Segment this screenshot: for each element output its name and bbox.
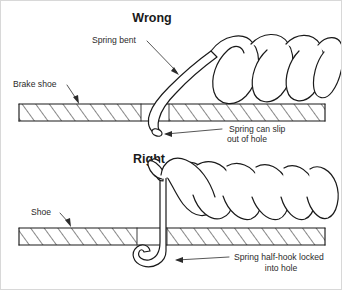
wrong-spring-coils [211,34,342,103]
spring-slip-leader [166,129,222,134]
callout-spring-bent: Spring bent [92,35,179,75]
shoe-label: Shoe [31,207,51,217]
right-spring [133,158,338,267]
wrong-figure: Wrong [13,11,342,144]
spring-bent-leader [147,41,177,72]
shoe-hatch-left [19,228,137,245]
half-hook-label-line2: into hole [265,263,298,273]
callout-half-hook: Spring half-hook locked into hole [175,252,324,273]
callout-shoe: Shoe [31,207,71,227]
brake-shoe-bar [19,104,325,121]
shoe-hatch-right [167,228,325,245]
callout-brake-shoe: Brake shoe [13,79,79,104]
arrow-down-right-icon [171,67,179,75]
diagram-canvas: Wrong [1,1,342,290]
spring-installation-diagram: Wrong [0,0,342,290]
wrong-title: Wrong [132,11,171,25]
arrow-down-icon [73,95,79,104]
arrow-left-icon [164,131,172,137]
spring-slip-label-line1: Spring can slip [229,124,286,134]
callout-spring-slip: Spring can slip out of hole [164,124,286,144]
brake-shoe-label: Brake shoe [13,79,57,89]
spring-half-hook-leg [133,177,166,267]
brake-shoe-hatch-left [19,104,141,121]
spring-bent-label: Spring bent [92,35,137,45]
coil-2 [251,34,293,101]
coil-1 [211,36,259,104]
half-hook-label-line1: Spring half-hook locked [234,252,324,262]
brake-shoe-hatch-right [169,104,325,121]
arrow-left-icon [175,257,183,263]
shoe-bar [19,228,325,245]
spring-slip-label-line2: out of hole [227,134,267,144]
wrong-spring [148,34,342,137]
half-hook-leader [177,257,229,260]
right-figure: Right [19,152,338,273]
right-spring-coils [148,158,338,219]
